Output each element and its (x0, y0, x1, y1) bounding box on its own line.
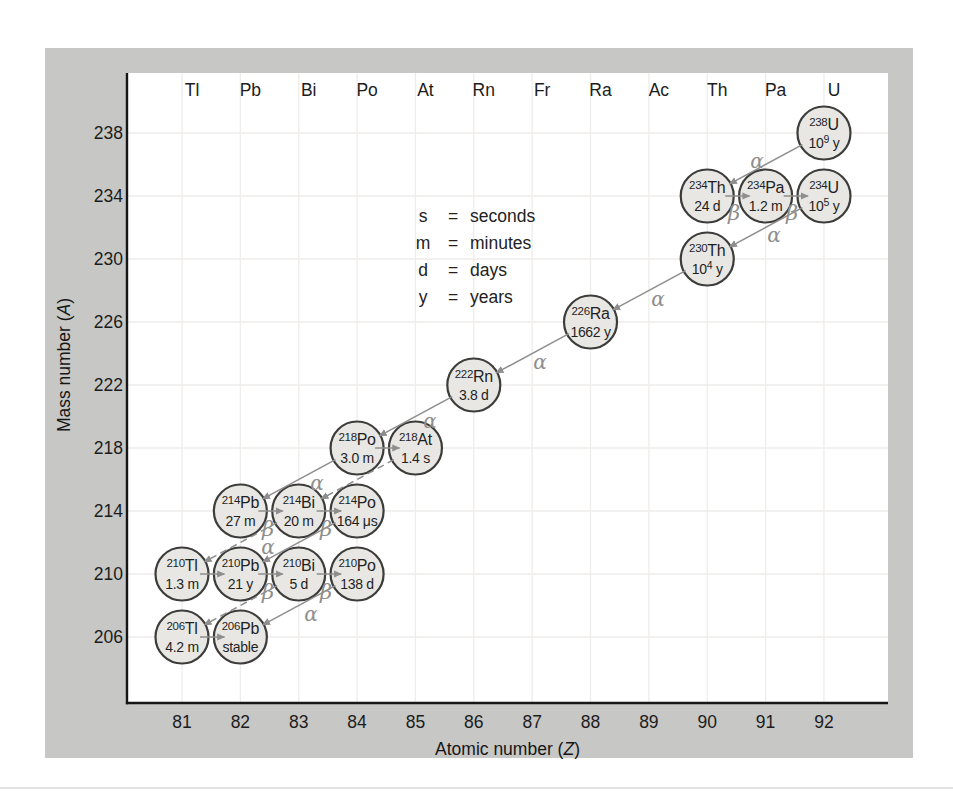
element-symbol-label: Ac (649, 80, 670, 100)
decay-label-alpha: α (651, 287, 665, 311)
element-symbol-label: At (417, 80, 434, 100)
page-bottom-rule (0, 787, 953, 789)
legend-unit-symbol: m (410, 230, 436, 257)
nuclide-halflife-210Bi: 5 d (289, 576, 308, 592)
decay-label-alpha: α (423, 409, 437, 433)
x-tick-label: 90 (698, 712, 718, 732)
legend-unit-word: seconds (470, 206, 535, 226)
nuclide-circle-222Rn (447, 359, 500, 412)
nuclide-halflife-210Po: 138 d (340, 576, 374, 592)
nuclide-circle-226Ra (564, 296, 617, 349)
x-tick-label: 88 (581, 712, 600, 732)
y-axis-title: Mass number (A) (54, 298, 75, 432)
decay-label-alpha: α (533, 350, 547, 374)
legend-row-years: y=years (410, 284, 535, 311)
x-axis-variable: Z (563, 739, 574, 759)
decay-label-beta: β (261, 580, 274, 604)
element-symbol-label: Tl (185, 80, 200, 100)
element-symbol-label: Ra (589, 80, 612, 100)
x-tick-label: 81 (172, 712, 191, 732)
legend-unit-symbol: y (410, 284, 436, 311)
legend-unit-symbol: d (410, 257, 436, 284)
x-axis-title: Atomic number (Z) (127, 739, 888, 760)
legend-row-days: d=days (410, 257, 535, 284)
y-tick-label: 230 (94, 249, 123, 269)
decay-series-chart: TlPbBiPoAtRnFrRaAcThPaU81828384858687888… (0, 0, 953, 804)
y-tick-label: 214 (94, 501, 123, 521)
element-symbol-label: Rn (473, 80, 495, 100)
x-tick-label: 92 (814, 712, 833, 732)
equals-sign: = (436, 257, 470, 284)
equals-sign: = (436, 230, 470, 257)
x-tick-label: 84 (347, 712, 367, 732)
nuclide-halflife-210Tl: 1.3 m (165, 576, 199, 592)
element-symbol-label: Bi (301, 80, 317, 100)
y-axis-title-text: Mass number ( (54, 315, 74, 432)
decay-label-alpha: α (304, 602, 318, 626)
element-symbol-label: U (828, 80, 841, 100)
element-symbol-label: Pa (765, 80, 787, 100)
x-tick-label: 87 (522, 712, 541, 732)
nuclide-halflife-226Ra: 1662 y (570, 324, 611, 340)
element-symbol-label: Th (707, 80, 727, 100)
element-symbol-label: Pb (240, 80, 261, 100)
equals-sign: = (436, 203, 470, 230)
y-tick-label: 218 (94, 438, 123, 458)
nuclide-halflife-206Tl: 4.2 m (165, 639, 199, 655)
nuclide-halflife-218Po: 3.0 m (340, 450, 374, 466)
y-axis-title-close: ) (54, 298, 74, 304)
legend-unit-word: years (470, 287, 513, 307)
x-tick-label: 91 (756, 712, 775, 732)
decay-label-alpha: α (767, 223, 781, 247)
x-axis-title-close: ) (574, 739, 580, 759)
element-symbol-label: Fr (534, 80, 551, 100)
x-tick-label: 82 (231, 712, 250, 732)
legend-unit-word: days (470, 260, 507, 280)
x-tick-label: 89 (639, 712, 658, 732)
x-tick-label: 83 (289, 712, 308, 732)
decay-label-beta: β (727, 201, 740, 225)
nuclide-halflife-214Bi: 20 m (284, 513, 314, 529)
legend-row-seconds: s=seconds (410, 203, 535, 230)
y-tick-label: 222 (94, 375, 123, 395)
equals-sign: = (436, 284, 470, 311)
element-symbol-label: Po (356, 80, 377, 100)
x-tick-label: 85 (406, 712, 425, 732)
plot-background (127, 73, 888, 703)
x-axis-title-text: Atomic number ( (435, 739, 563, 759)
nuclide-halflife-222Rn: 3.8 d (459, 387, 489, 403)
x-tick-label: 86 (464, 712, 483, 732)
legend-unit-word: minutes (470, 233, 531, 253)
nuclide-halflife-214Pb: 27 m (225, 513, 255, 529)
y-axis-variable: A (54, 304, 74, 316)
nuclide-halflife-214Po: 164 μs (337, 513, 378, 529)
nuclide-halflife-206Pb: stable (223, 639, 259, 655)
time-units-legend: s=seconds m=minutes d=days y=years (410, 203, 535, 311)
decay-label-alpha: α (750, 149, 764, 173)
decay-label-beta: β (319, 517, 332, 541)
nuclide-halflife-218At: 1.4 s (401, 450, 430, 466)
nuclide-halflife-210Pb: 21 y (228, 576, 254, 592)
decay-label-alpha: α (310, 471, 324, 495)
y-tick-label: 238 (94, 123, 123, 143)
nuclide-halflife-234Th: 24 d (694, 198, 720, 214)
legend-row-minutes: m=minutes (410, 230, 535, 257)
y-tick-label: 210 (94, 564, 123, 584)
nuclide-halflife-234Pa: 1.2 m (749, 198, 783, 214)
decay-label-alpha: α (261, 535, 275, 559)
y-tick-label: 226 (94, 312, 123, 332)
legend-unit-symbol: s (410, 203, 436, 230)
decay-label-beta: β (319, 580, 332, 604)
y-tick-label: 206 (94, 627, 123, 647)
y-tick-label: 234 (94, 186, 123, 206)
